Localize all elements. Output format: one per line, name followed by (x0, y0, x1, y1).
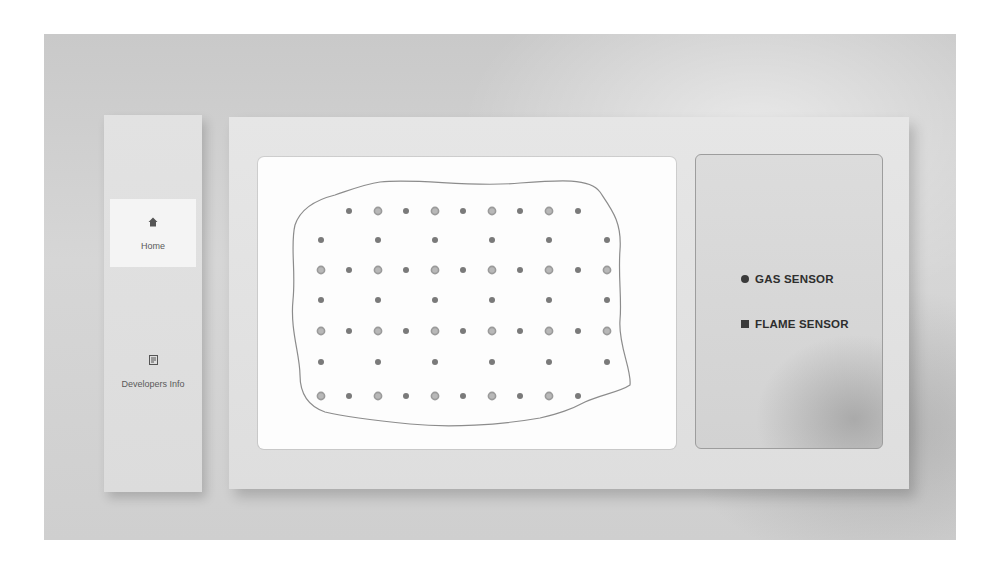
flame-sensor-marker[interactable] (375, 237, 381, 243)
flame-sensor-marker[interactable] (432, 237, 438, 243)
flame-sensor-marker[interactable] (403, 393, 409, 399)
gas-sensor-marker[interactable] (431, 327, 438, 334)
flame-sensor-marker[interactable] (546, 359, 552, 365)
flame-sensor-marker[interactable] (375, 297, 381, 303)
sensor-layer (317, 207, 610, 399)
gas-sensor-marker[interactable] (317, 392, 324, 399)
flame-sensor-marker[interactable] (460, 267, 466, 273)
legend-item-gas-sensor: GAS SENSOR (741, 273, 834, 285)
flame-sensor-marker[interactable] (318, 297, 324, 303)
flame-sensor-marker[interactable] (346, 328, 352, 334)
flame-sensor-marker[interactable] (318, 237, 324, 243)
gas-sensor-marker[interactable] (545, 207, 552, 214)
gas-sensor-marker[interactable] (431, 266, 438, 273)
flame-sensor-marker[interactable] (346, 208, 352, 214)
flame-sensor-marker[interactable] (575, 267, 581, 273)
gas-sensor-marker[interactable] (431, 207, 438, 214)
sidebar-item-home[interactable]: Home (110, 199, 196, 267)
flame-sensor-marker[interactable] (517, 393, 523, 399)
flame-sensor-marker[interactable] (517, 267, 523, 273)
flame-sensor-marker[interactable] (346, 393, 352, 399)
legend-label: FLAME SENSOR (755, 318, 849, 330)
flame-sensor-marker[interactable] (517, 328, 523, 334)
flame-sensor-marker[interactable] (604, 237, 610, 243)
gas-sensor-marker[interactable] (545, 392, 552, 399)
gas-sensor-marker[interactable] (374, 207, 381, 214)
flame-sensor-marker[interactable] (575, 393, 581, 399)
flame-sensor-marker[interactable] (460, 328, 466, 334)
gas-sensor-marker[interactable] (431, 392, 438, 399)
gas-sensor-marker[interactable] (374, 266, 381, 273)
gas-sensor-marker[interactable] (317, 266, 324, 273)
gas-sensor-circle-icon (741, 275, 749, 283)
gas-sensor-marker[interactable] (374, 392, 381, 399)
flame-sensor-marker[interactable] (460, 393, 466, 399)
sidebar-item-label: Home (141, 241, 165, 251)
flame-sensor-marker[interactable] (375, 359, 381, 365)
legend-item-flame-sensor: FLAME SENSOR (741, 318, 849, 330)
flame-sensor-marker[interactable] (546, 237, 552, 243)
flame-sensor-marker[interactable] (403, 328, 409, 334)
flame-sensor-marker[interactable] (403, 267, 409, 273)
sensor-map[interactable] (258, 157, 676, 449)
gas-sensor-marker[interactable] (603, 266, 610, 273)
flame-sensor-marker[interactable] (432, 359, 438, 365)
area-boundary (292, 181, 630, 426)
gas-sensor-marker[interactable] (374, 327, 381, 334)
flame-sensor-marker[interactable] (604, 359, 610, 365)
home-icon (148, 215, 158, 231)
flame-sensor-marker[interactable] (489, 237, 495, 243)
sidebar-item-developers-info[interactable]: Developers Info (110, 337, 196, 405)
gas-sensor-marker[interactable] (317, 327, 324, 334)
gas-sensor-marker[interactable] (545, 266, 552, 273)
flame-sensor-marker[interactable] (575, 208, 581, 214)
flame-sensor-marker[interactable] (318, 359, 324, 365)
gas-sensor-marker[interactable] (545, 327, 552, 334)
flame-sensor-marker[interactable] (346, 267, 352, 273)
flame-sensor-marker[interactable] (489, 359, 495, 365)
gas-sensor-marker[interactable] (488, 207, 495, 214)
legend-card: GAS SENSOR FLAME SENSOR (695, 154, 883, 449)
flame-sensor-marker[interactable] (460, 208, 466, 214)
flame-sensor-marker[interactable] (575, 328, 581, 334)
legend-label: GAS SENSOR (755, 273, 834, 285)
sidebar-item-label: Developers Info (121, 379, 184, 389)
gas-sensor-marker[interactable] (488, 266, 495, 273)
flame-sensor-marker[interactable] (546, 297, 552, 303)
gas-sensor-marker[interactable] (488, 327, 495, 334)
gas-sensor-marker[interactable] (488, 392, 495, 399)
sensor-map-card (258, 157, 676, 449)
gas-sensor-marker[interactable] (603, 327, 610, 334)
flame-sensor-marker[interactable] (489, 297, 495, 303)
document-icon (149, 353, 158, 369)
flame-sensor-marker[interactable] (604, 297, 610, 303)
sidebar: Home Developers Info (104, 115, 202, 492)
flame-sensor-marker[interactable] (517, 208, 523, 214)
flame-sensor-square-icon (741, 320, 749, 328)
flame-sensor-marker[interactable] (403, 208, 409, 214)
flame-sensor-marker[interactable] (432, 297, 438, 303)
